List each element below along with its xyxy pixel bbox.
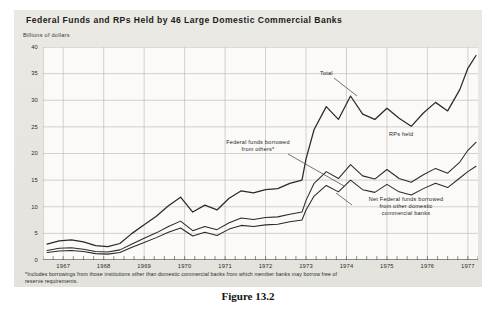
- x-tick-label-1969: 1969: [131, 263, 157, 269]
- y-tick-label-35: 35: [24, 70, 38, 76]
- x-tick-label-1967: 1967: [50, 263, 76, 269]
- y-tick-label-5: 5: [24, 230, 38, 236]
- x-tick-label-1971: 1971: [212, 263, 238, 269]
- y-axis-unit-label: Billions of dollars: [23, 32, 70, 38]
- y-tick-label-15: 15: [24, 177, 38, 183]
- y-tick-label-20: 20: [24, 150, 38, 156]
- y-tick-label-10: 10: [24, 204, 38, 210]
- x-tick-label-1977: 1977: [455, 263, 481, 269]
- x-tick-label-1973: 1973: [293, 263, 319, 269]
- figure-container: Federal Funds and RPs Held by 46 Large D…: [0, 0, 496, 310]
- annotation-total: Total: [320, 70, 333, 77]
- annotation-federal-funds-borrowed-line2: from others*: [205, 146, 311, 153]
- x-tick-label-1970: 1970: [172, 263, 198, 269]
- annotation-rps-held: RPs held: [389, 131, 413, 138]
- figure-caption: Figure 13.2: [0, 290, 496, 302]
- x-tick-label-1972: 1972: [253, 263, 279, 269]
- chart-svg: [43, 47, 478, 260]
- plot-area: [43, 47, 478, 260]
- y-tick-label-0: 0: [24, 257, 38, 263]
- annotation-net-federal-line3: commercial banks: [345, 210, 467, 217]
- footnote: *Includes borrowings from those institut…: [25, 271, 355, 286]
- x-tick-label-1975: 1975: [374, 263, 400, 269]
- x-tick-label-1976: 1976: [414, 263, 440, 269]
- y-tick-label-40: 40: [24, 44, 38, 50]
- x-tick-label-1968: 1968: [91, 263, 117, 269]
- y-tick-label-25: 25: [24, 124, 38, 130]
- y-tick-label-30: 30: [24, 97, 38, 103]
- chart-title: Federal Funds and RPs Held by 46 Large D…: [26, 15, 446, 25]
- x-tick-label-1974: 1974: [333, 263, 359, 269]
